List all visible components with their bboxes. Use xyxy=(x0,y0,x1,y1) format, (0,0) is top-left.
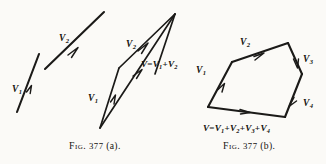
label-polygon-v2: V2 xyxy=(240,38,250,48)
parallelogram-side-v1 xyxy=(100,68,119,128)
label-parallelogram-v1: V1 xyxy=(88,94,98,104)
label-polygon-v4: V4 xyxy=(303,99,313,109)
label-polygon-resultant: V=V1+V2+V3+V4 xyxy=(203,124,270,133)
label-polygon-v3: V3 xyxy=(303,55,313,65)
label-polygon-v1: V1 xyxy=(196,66,206,76)
label-given-v2: V2 xyxy=(59,34,69,44)
vector-addition-figure-plate: V1 V2 V1 V2 V=V1+V2 Fig. 377 (a). V1 V2 … xyxy=(0,0,326,164)
caption-figure-a: Fig. 377 (a). xyxy=(69,141,121,151)
label-parallelogram-v2: V2 xyxy=(126,40,136,50)
polygon-edge-resultant-v xyxy=(208,107,285,117)
polygon-edge-v3 xyxy=(288,43,302,74)
label-given-v1: V1 xyxy=(12,85,22,95)
polygon-edge-v1 xyxy=(208,62,232,107)
caption-figure-b: Fig. 377 (b). xyxy=(223,141,275,151)
label-parallelogram-resultant: V=V1+V2 xyxy=(141,60,178,69)
given-vector-v2 xyxy=(45,12,104,69)
parallelogram-resultant-v xyxy=(100,14,175,128)
figure-linework xyxy=(0,0,326,164)
polygon-edge-v4 xyxy=(285,74,302,117)
given-vector-v1 xyxy=(17,54,39,112)
